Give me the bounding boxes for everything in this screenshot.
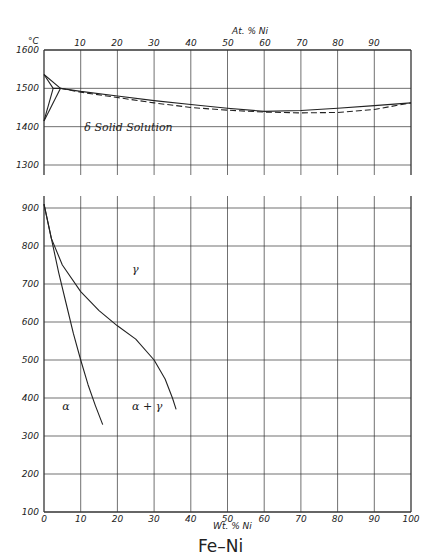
gamma-boundary-curve xyxy=(44,204,176,409)
chart-title: Fe–Ni xyxy=(198,536,243,556)
y-tick-label: 800 xyxy=(22,241,39,251)
x-axis-label: Wt. % Ni xyxy=(213,521,252,531)
x-tick-label: 60 xyxy=(258,514,270,524)
y-tick-label: 100 xyxy=(22,507,39,517)
y-tick-label: 500 xyxy=(22,355,39,365)
y-tick-label: 1300 xyxy=(16,160,39,170)
y-tick-label: 1600 xyxy=(16,45,39,55)
phase-diagram: 1600150014001300900800700600500400300200… xyxy=(0,0,434,559)
y-tick-label: 600 xyxy=(22,317,39,327)
top-x-tick-label: 90 xyxy=(368,38,380,48)
x-tick-label: 0 xyxy=(41,514,47,524)
x-tick-label: 70 xyxy=(295,514,307,524)
y-tick-label: 1400 xyxy=(16,122,39,132)
phase-label: α + γ xyxy=(132,400,163,413)
phase-label: δ Solid Solution xyxy=(84,121,172,134)
y-tick-label: 900 xyxy=(22,203,39,213)
y-tick-label: 200 xyxy=(22,469,39,479)
y-unit-label: °C xyxy=(28,36,40,46)
top-x-tick-label: 60 xyxy=(259,38,271,48)
top-x-tick-label: 70 xyxy=(296,38,308,48)
top-x-tick-label: 40 xyxy=(185,38,197,48)
x-tick-label: 100 xyxy=(402,514,419,524)
x-tick-label: 20 xyxy=(112,514,124,524)
y-tick-label: 1500 xyxy=(16,83,39,93)
top-x-tick-label: 10 xyxy=(74,38,86,48)
grid xyxy=(44,50,411,512)
phase-label: γ xyxy=(132,263,139,276)
x-tick-label: 40 xyxy=(185,514,197,524)
top-x-tick-label: 80 xyxy=(332,38,344,48)
x-tick-label: 30 xyxy=(148,514,160,524)
x-tick-label: 10 xyxy=(75,514,87,524)
top-x-tick-label: 20 xyxy=(111,38,123,48)
top-x-tick-label: 30 xyxy=(148,38,160,48)
y-tick-label: 700 xyxy=(22,279,39,289)
x-tick-label: 80 xyxy=(332,514,344,524)
alpha-boundary-curve xyxy=(44,204,103,424)
top-axis-label: At. % Ni xyxy=(231,26,269,36)
x-tick-label: 90 xyxy=(369,514,381,524)
y-tick-label: 400 xyxy=(22,393,39,403)
y-tick-label: 300 xyxy=(22,431,39,441)
top-x-tick-label: 50 xyxy=(222,38,234,48)
phase-label: α xyxy=(62,400,70,413)
